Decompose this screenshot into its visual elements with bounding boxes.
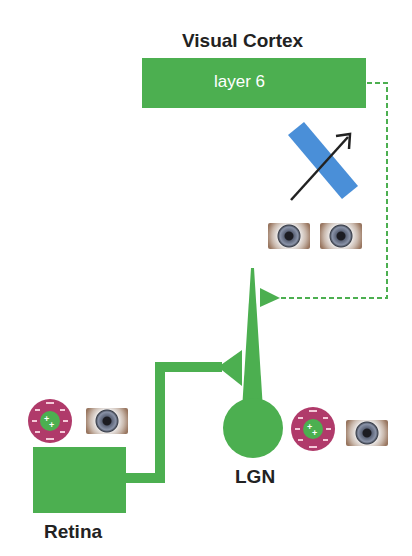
retina-label: Retina bbox=[44, 521, 102, 543]
svg-text:+: + bbox=[312, 428, 317, 438]
eye-icon bbox=[86, 408, 128, 434]
lgn-label: LGN bbox=[235, 466, 275, 488]
eye-icon bbox=[320, 223, 362, 249]
cortex-title: Visual Cortex bbox=[182, 30, 303, 52]
retina-axon bbox=[126, 367, 222, 478]
retina-axon-terminal bbox=[218, 350, 242, 386]
cortex-layer-label: layer 6 bbox=[214, 72, 265, 92]
diagram-canvas: + + + + bbox=[0, 0, 412, 556]
feedback-dashed-path bbox=[280, 83, 387, 298]
center-surround-receptive-field-icon: + + bbox=[291, 407, 335, 451]
eye-icon bbox=[268, 223, 310, 249]
feedback-arrowhead bbox=[260, 288, 280, 307]
retina-box bbox=[33, 447, 126, 513]
center-surround-receptive-field-icon: + + bbox=[28, 399, 72, 443]
eye-icon bbox=[346, 420, 388, 446]
lgn-dendrite bbox=[242, 268, 263, 410]
lgn-soma bbox=[223, 398, 283, 458]
svg-text:+: + bbox=[49, 420, 54, 430]
